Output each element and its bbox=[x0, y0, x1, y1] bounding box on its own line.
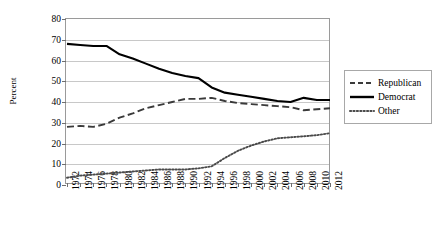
y-axis-tick-label: 20 bbox=[52, 139, 62, 149]
y-axis-title: Percent bbox=[8, 61, 18, 121]
y-axis-tick-label: 80 bbox=[52, 14, 62, 24]
plot-area: 01020304050607080 1972197419761978198019… bbox=[65, 18, 330, 184]
legend-swatch-other-icon bbox=[349, 106, 375, 116]
legend-item-other[interactable]: Other bbox=[349, 104, 428, 118]
y-axis-tick-label: 30 bbox=[52, 118, 62, 128]
y-axis-tick-label: 50 bbox=[52, 76, 62, 86]
legend-label: Other bbox=[375, 106, 400, 116]
legend-label: Democrat bbox=[375, 92, 415, 102]
y-axis-tick-mark bbox=[62, 185, 66, 186]
series-line-democrat bbox=[67, 44, 330, 102]
chart-legend: RepublicanDemocratOther bbox=[344, 70, 432, 124]
y-axis-tick-label: 0 bbox=[56, 180, 61, 190]
series-line-other bbox=[67, 133, 330, 178]
data-series-layer bbox=[66, 19, 331, 185]
legend-swatch-democrat-icon bbox=[349, 92, 375, 102]
y-axis-tick-label: 10 bbox=[52, 159, 62, 169]
legend-item-democrat[interactable]: Democrat bbox=[349, 90, 428, 104]
y-axis-tick-label: 60 bbox=[52, 56, 62, 66]
y-axis-tick-label: 40 bbox=[52, 97, 62, 107]
legend-item-republican[interactable]: Republican bbox=[349, 76, 428, 90]
legend-swatch-republican-icon bbox=[349, 78, 375, 88]
x-axis-tick-label: 2012 bbox=[334, 171, 344, 190]
y-axis-tick-label: 70 bbox=[52, 35, 62, 45]
chart-container: Percent 01020304050607080 19721974197619… bbox=[0, 0, 439, 235]
legend-label: Republican bbox=[375, 78, 421, 88]
